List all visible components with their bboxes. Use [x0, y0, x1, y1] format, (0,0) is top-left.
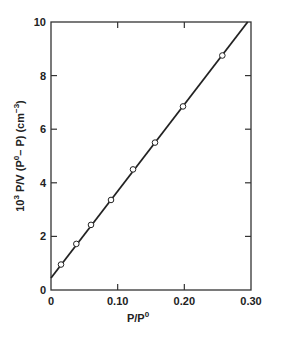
plot-frame	[51, 22, 251, 290]
data-point-marker	[180, 104, 186, 110]
y-tick-label: 4	[40, 177, 47, 189]
data-point-marker	[108, 197, 114, 203]
data-point-marker	[152, 140, 158, 146]
x-tick-label: 0.30	[240, 295, 261, 307]
y-tick-label: 10	[34, 16, 46, 28]
data-point-marker	[130, 167, 136, 173]
x-tick-label: 0	[48, 295, 54, 307]
data-point-marker	[220, 53, 226, 59]
x-tick-label: 0.10	[107, 295, 128, 307]
y-axis-label: 103 P/V (P0– P) (cm−3)	[12, 100, 26, 212]
bet-plot: 00.100.200.300246810 P/P0 103 P/V (P0– P…	[0, 0, 281, 340]
y-tick-label: 2	[40, 230, 46, 242]
data-point-marker	[88, 222, 94, 228]
fit-line-path	[51, 22, 248, 278]
plot-axes	[51, 22, 251, 290]
data-point-marker	[58, 262, 64, 268]
y-tick-label: 6	[40, 123, 46, 135]
x-axis-label: P/P0	[127, 310, 150, 324]
axis-ticks: 00.100.200.300246810	[34, 16, 262, 307]
data-point-marker	[74, 241, 80, 247]
fit-line	[51, 22, 248, 278]
x-tick-label: 0.20	[174, 295, 195, 307]
y-tick-label: 0	[40, 284, 46, 296]
y-tick-label: 8	[40, 70, 46, 82]
